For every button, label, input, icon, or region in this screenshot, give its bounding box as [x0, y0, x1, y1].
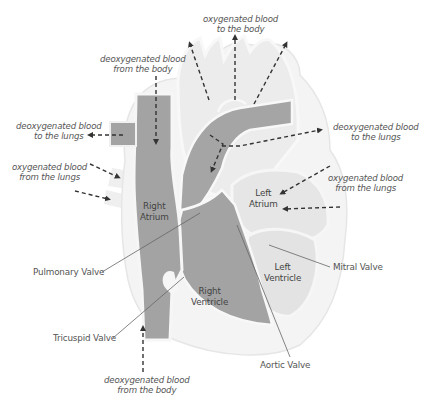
heart-diagram: oxygenated blood to the body deoxygenate…	[0, 0, 422, 410]
label-tricuspid-valve: Tricuspid Valve	[53, 333, 116, 343]
label-deoxygenated-to-lungs-left: deoxygenated blood to the lungs	[16, 121, 102, 141]
label-oxygenated-to-body: oxygenated blood to the body	[203, 14, 278, 34]
label-oxygenated-from-lungs-left: oxygenated blood from the lungs	[12, 162, 87, 182]
label-aortic-valve: Aortic Valve	[260, 360, 310, 370]
label-mitral-valve: Mitral Valve	[333, 262, 383, 272]
left-pulmonary-branch	[110, 122, 136, 146]
label-right-ventricle: Right Ventricle	[191, 286, 228, 307]
heart-illustration	[0, 0, 422, 410]
label-deoxygenated-from-body-top: deoxygenated blood from the body	[100, 54, 186, 74]
label-deoxygenated-to-lungs-right: deoxygenated blood to the lungs	[333, 122, 419, 142]
label-deoxygenated-from-body-bottom: deoxygenated blood from the body	[104, 375, 190, 395]
label-left-atrium: Left Atrium	[249, 188, 278, 209]
arrow-left-lungs-in-2	[75, 191, 108, 199]
label-left-ventricle: Left Ventricle	[264, 262, 301, 283]
label-pulmonary-valve: Pulmonary Valve	[33, 267, 104, 277]
label-oxygenated-from-lungs-right: oxygenated blood from the lungs	[328, 173, 403, 193]
label-right-atrium: Right Atrium	[140, 201, 169, 222]
